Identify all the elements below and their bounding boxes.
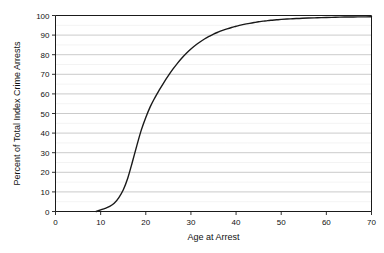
x-tick-label: 0 bbox=[53, 218, 58, 227]
y-tick-label: 60 bbox=[41, 90, 50, 99]
x-tick-label: 40 bbox=[232, 218, 241, 227]
x-axis-title: Age at Arrest bbox=[187, 232, 240, 242]
x-tick-label: 10 bbox=[96, 218, 105, 227]
crime-arrests-cumulative-chart: 010203040506070 0102030405060708090100 A… bbox=[0, 0, 384, 253]
chart-background bbox=[0, 0, 384, 253]
y-tick-label: 50 bbox=[41, 110, 50, 119]
y-tick-label: 0 bbox=[45, 208, 50, 217]
y-tick-label: 30 bbox=[41, 149, 50, 158]
y-tick-label: 40 bbox=[41, 129, 50, 138]
x-tick-label: 30 bbox=[186, 218, 195, 227]
y-tick-label: 70 bbox=[41, 70, 50, 79]
x-tick-label: 20 bbox=[141, 218, 150, 227]
x-tick-label: 60 bbox=[322, 218, 331, 227]
y-tick-label: 80 bbox=[41, 51, 50, 60]
y-tick-label: 90 bbox=[41, 31, 50, 40]
x-tick-label: 50 bbox=[277, 218, 286, 227]
y-axis-title: Percent of Total Index Crime Arrests bbox=[12, 41, 22, 185]
y-tick-label: 20 bbox=[41, 168, 50, 177]
x-tick-label: 70 bbox=[367, 218, 376, 227]
y-tick-label: 100 bbox=[36, 12, 50, 21]
y-tick-label: 10 bbox=[41, 188, 50, 197]
